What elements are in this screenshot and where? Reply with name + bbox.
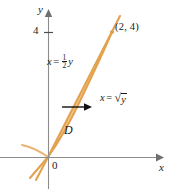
width-arrow-head-icon xyxy=(84,103,92,111)
fraction-numerator: 1 xyxy=(62,54,68,62)
y-tick-label-4: 4 xyxy=(33,25,39,36)
origin-label: 0 xyxy=(52,160,58,171)
equation-line-variable: y xyxy=(68,57,73,68)
equation-line-relation: = xyxy=(52,57,61,68)
math-figure: y x 4 0 (2, 4) D x = 1 2 y x = √ y xyxy=(0,0,170,189)
radical-sign-icon: √ xyxy=(115,92,122,105)
curve-sqrt-tail xyxy=(22,145,48,157)
figure-canvas xyxy=(0,0,170,189)
y-axis-label: y xyxy=(38,4,43,15)
region-label-D: D xyxy=(64,124,73,136)
radical-expression: √ y xyxy=(115,92,127,105)
equation-label-sqrt: x = √ y xyxy=(100,92,127,105)
point-label-2-4: (2, 4) xyxy=(115,22,139,33)
x-axis-label: x xyxy=(159,162,164,173)
fraction-denominator: 2 xyxy=(62,61,68,70)
equation-label-line: x = 1 2 y xyxy=(47,54,73,70)
equation-sqrt-relation: = xyxy=(105,93,114,104)
point-marker-2-4 xyxy=(110,30,114,34)
radicand: y xyxy=(121,93,127,105)
y-axis-arrowhead xyxy=(45,9,52,17)
fraction-one-half: 1 2 xyxy=(62,54,68,70)
